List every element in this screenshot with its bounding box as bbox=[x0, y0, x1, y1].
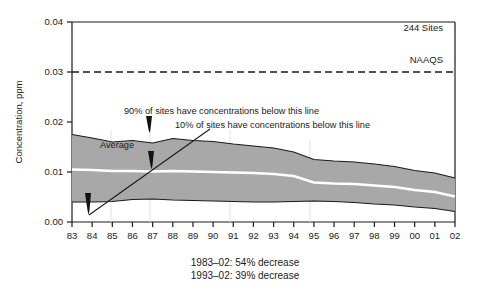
x-tick-label-87: 87 bbox=[147, 230, 158, 241]
average-annotation-text: Average bbox=[100, 140, 134, 150]
x-tick-label-02: 02 bbox=[450, 230, 461, 241]
x-tick-label-01: 01 bbox=[430, 230, 441, 241]
y-tick-label-0.02: 0.02 bbox=[45, 116, 64, 127]
y-tick-label-0.00: 0.00 bbox=[45, 216, 64, 227]
x-tick-label-89: 89 bbox=[188, 230, 199, 241]
x-tick-label-83: 83 bbox=[67, 230, 78, 241]
air-quality-trend-chart: 0.000.010.020.030.04 Concentration, ppm … bbox=[0, 0, 489, 295]
x-tick-label-99: 99 bbox=[389, 230, 400, 241]
chart-canvas: 0.000.010.020.030.04 Concentration, ppm … bbox=[0, 0, 489, 295]
caption-line-2: 1993–02: 39% decrease bbox=[191, 270, 300, 281]
x-tick-label-96: 96 bbox=[329, 230, 340, 241]
y-axis-title: Concentration, ppm bbox=[13, 80, 24, 163]
y-tick-label-0.01: 0.01 bbox=[45, 166, 64, 177]
x-tick-label-88: 88 bbox=[168, 230, 179, 241]
site-count-label: 244 Sites bbox=[403, 22, 443, 33]
caption-line-1: 1983–02: 54% decrease bbox=[191, 257, 300, 268]
x-tick-label-85: 85 bbox=[107, 230, 118, 241]
y-tick-label-0.04: 0.04 bbox=[45, 16, 64, 27]
x-tick-label-00: 00 bbox=[409, 230, 420, 241]
x-tick-label-97: 97 bbox=[349, 230, 360, 241]
x-tick-label-98: 98 bbox=[369, 230, 380, 241]
y-tick-label-0.03: 0.03 bbox=[45, 66, 64, 77]
naaqs-label: NAAQS bbox=[410, 54, 443, 65]
p10-annotation-text: 10% of sites have concentrations below t… bbox=[175, 120, 370, 130]
p90-annotation-text: 90% of sites have concentrations below t… bbox=[124, 106, 319, 116]
x-tick-label-94: 94 bbox=[288, 230, 299, 241]
x-tick-label-91: 91 bbox=[228, 230, 239, 241]
x-tick-label-92: 92 bbox=[248, 230, 259, 241]
x-tick-label-95: 95 bbox=[309, 230, 320, 241]
x-tick-label-93: 93 bbox=[268, 230, 279, 241]
x-tick-label-90: 90 bbox=[208, 230, 219, 241]
x-tick-label-86: 86 bbox=[127, 230, 138, 241]
x-tick-label-84: 84 bbox=[87, 230, 98, 241]
